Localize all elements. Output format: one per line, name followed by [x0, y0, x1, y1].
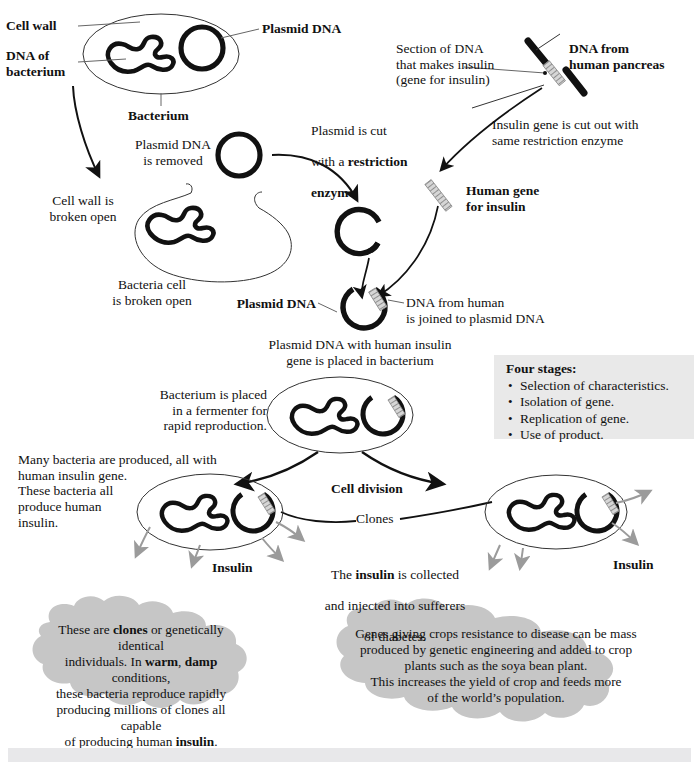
label-cell-wall-broken: Cell wall is broken open [28, 193, 138, 224]
clones-cloud-line-2: these bacteria reproduce rapidly [36, 686, 246, 702]
label-plasmid-in-bacterium: Plasmid DNA with human insulin gene is p… [240, 337, 480, 368]
crops-cloud-line-2: plants such as the soya bean plant. [336, 658, 656, 674]
clones-cloud-line-1: individuals. In warm, damp conditions, [36, 654, 246, 686]
label-plasmid-cut-line2: with a restriction [311, 154, 407, 169]
label-dna-joined: DNA from human is joined to plasmid DNA [406, 295, 606, 326]
label-dna-of-bacterium: DNA of bacterium [6, 48, 65, 79]
insulin-arrow-left-1 [136, 527, 150, 556]
arrow-gene-to-joined [378, 206, 438, 296]
label-plasmid-dna-joined: Plasmid DNA [228, 296, 316, 312]
clones-cloud-text: These are clones or genetically identica… [36, 622, 246, 750]
bacterium-cell-top [78, 14, 259, 106]
label-insulin-bold: insulin [355, 567, 394, 582]
label-plasmid-dna-top: Plasmid DNA [262, 21, 341, 37]
label-insulin-gene-cut: Insulin gene is cut out with same restri… [492, 117, 692, 148]
cut-plasmid [337, 210, 379, 254]
crops-cloud-line-4: of the world’s population. [336, 690, 656, 706]
bacterium-clone-right [485, 475, 650, 568]
arrow-to-broken-cell [73, 86, 99, 176]
insulin-arrow-left-2 [192, 545, 200, 566]
recombinant-plasmid [318, 278, 404, 336]
label-bacterium: Bacterium [128, 108, 189, 124]
crops-cloud-line-1: produced by genetic engineering and adde… [336, 642, 656, 658]
label-insulin-collected-line2: and injected into sufferers [325, 598, 465, 613]
label-insulin-right: Insulin [613, 557, 654, 573]
broken-bacteria-cell [135, 184, 291, 282]
crops-cloud-text: Genes giving crops resistance to disease… [336, 626, 656, 706]
label-plasmid-cut-line1: Plasmid is cut [311, 123, 387, 138]
label-enzyme-bold: enzyme [311, 185, 354, 200]
crops-cloud-line-3: This increases the yield of crop and fee… [336, 674, 656, 690]
diagram-canvas: Cell wall DNA of bacterium Plasmid DNA B… [0, 0, 699, 770]
clones-cloud-line-3: producing millions of clones all capable [36, 702, 246, 734]
label-plasmid-cut: Plasmid is cut with a restriction enzyme [311, 107, 441, 201]
label-cell-wall: Cell wall [6, 18, 57, 34]
insulin-arrow-left-3 [262, 538, 282, 560]
crops-cloud-line-0: Genes giving crops resistance to disease… [336, 626, 656, 642]
four-stages-heading: Four stages: [506, 361, 686, 377]
label-restriction-bold: restriction [348, 154, 408, 169]
arrow-cutplasmid-to-joined [362, 258, 369, 297]
insulin-arrow-right-4 [616, 491, 650, 503]
label-clones: Clones [356, 511, 394, 527]
four-stages-item-3: Use of product. [520, 427, 686, 443]
label-section-of-dna: Section of DNA that makes insulin (gene … [396, 41, 536, 88]
label-insulin-left: Insulin [212, 560, 253, 576]
label-bacterium-fermenter: Bacterium is placed in a fermenter for r… [152, 387, 267, 434]
bacterium-cell-fermenter [267, 377, 413, 453]
label-dna-from-pancreas: DNA from human pancreas [569, 41, 697, 72]
insulin-arrow-right-3 [612, 523, 637, 544]
label-cell-division: Cell division [331, 481, 403, 497]
clones-line-right [400, 502, 492, 519]
label-many-bacteria: Many bacteria are produced, all with hum… [18, 452, 318, 530]
bottom-bar [8, 748, 691, 762]
four-stages-item-1: Isolation of gene. [520, 394, 686, 410]
label-insulin-collected-line1: The insulin is collected [331, 567, 459, 582]
clones-cloud-line-0: These are clones or genetically identica… [36, 622, 246, 654]
label-human-gene-for-insulin: Human gene for insulin [466, 183, 566, 214]
four-stages-item-2: Replication of gene. [520, 411, 686, 427]
four-stages-box: Four stages: Selection of characteristic… [494, 355, 694, 439]
label-plasmid-removed: Plasmid DNA is removed [118, 137, 228, 168]
arrow-cell-division-right [362, 452, 443, 484]
label-bacteria-cell-broken: Bacteria cell is broken open [92, 277, 212, 308]
four-stages-item-0: Selection of characteristics. [520, 378, 686, 394]
insulin-arrow-right-1 [490, 545, 500, 568]
insulin-arrow-right-2 [520, 548, 523, 568]
four-stages-list: Selection of characteristics. Isolation … [506, 378, 686, 444]
